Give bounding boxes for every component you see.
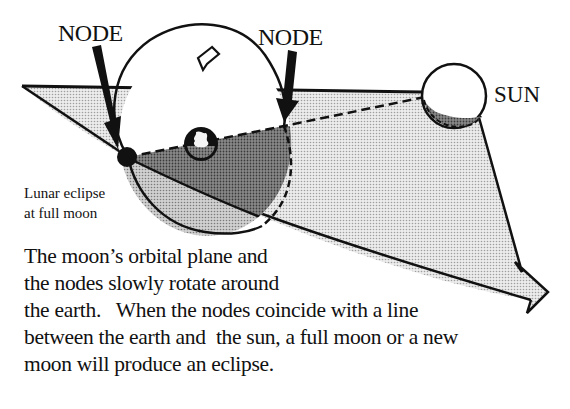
node-label-right: NODE xyxy=(258,24,323,51)
caption-line-3: the earth. When the nodes coincide with … xyxy=(24,297,564,324)
caption-line-4: between the earth and the sun, a full mo… xyxy=(24,324,564,351)
caption: The moon’s orbital plane and the nodes s… xyxy=(24,243,564,378)
eclipse-label-line-1: Lunar eclipse xyxy=(24,183,154,203)
sun-circle xyxy=(422,64,486,128)
sun-label: SUN xyxy=(494,82,540,108)
lunar-eclipse-label: Lunar eclipse at full moon xyxy=(24,183,154,223)
caption-line-1: The moon’s orbital plane and xyxy=(24,243,564,270)
caption-line-2: the nodes slowly rotate around xyxy=(24,270,564,297)
earth-globe xyxy=(184,127,218,161)
node-label-left: NODE xyxy=(58,20,123,47)
full-moon-at-node xyxy=(117,147,137,167)
eclipse-label-line-2: at full moon xyxy=(24,203,154,223)
caption-line-5: moon will produce an eclipse. xyxy=(24,351,564,378)
